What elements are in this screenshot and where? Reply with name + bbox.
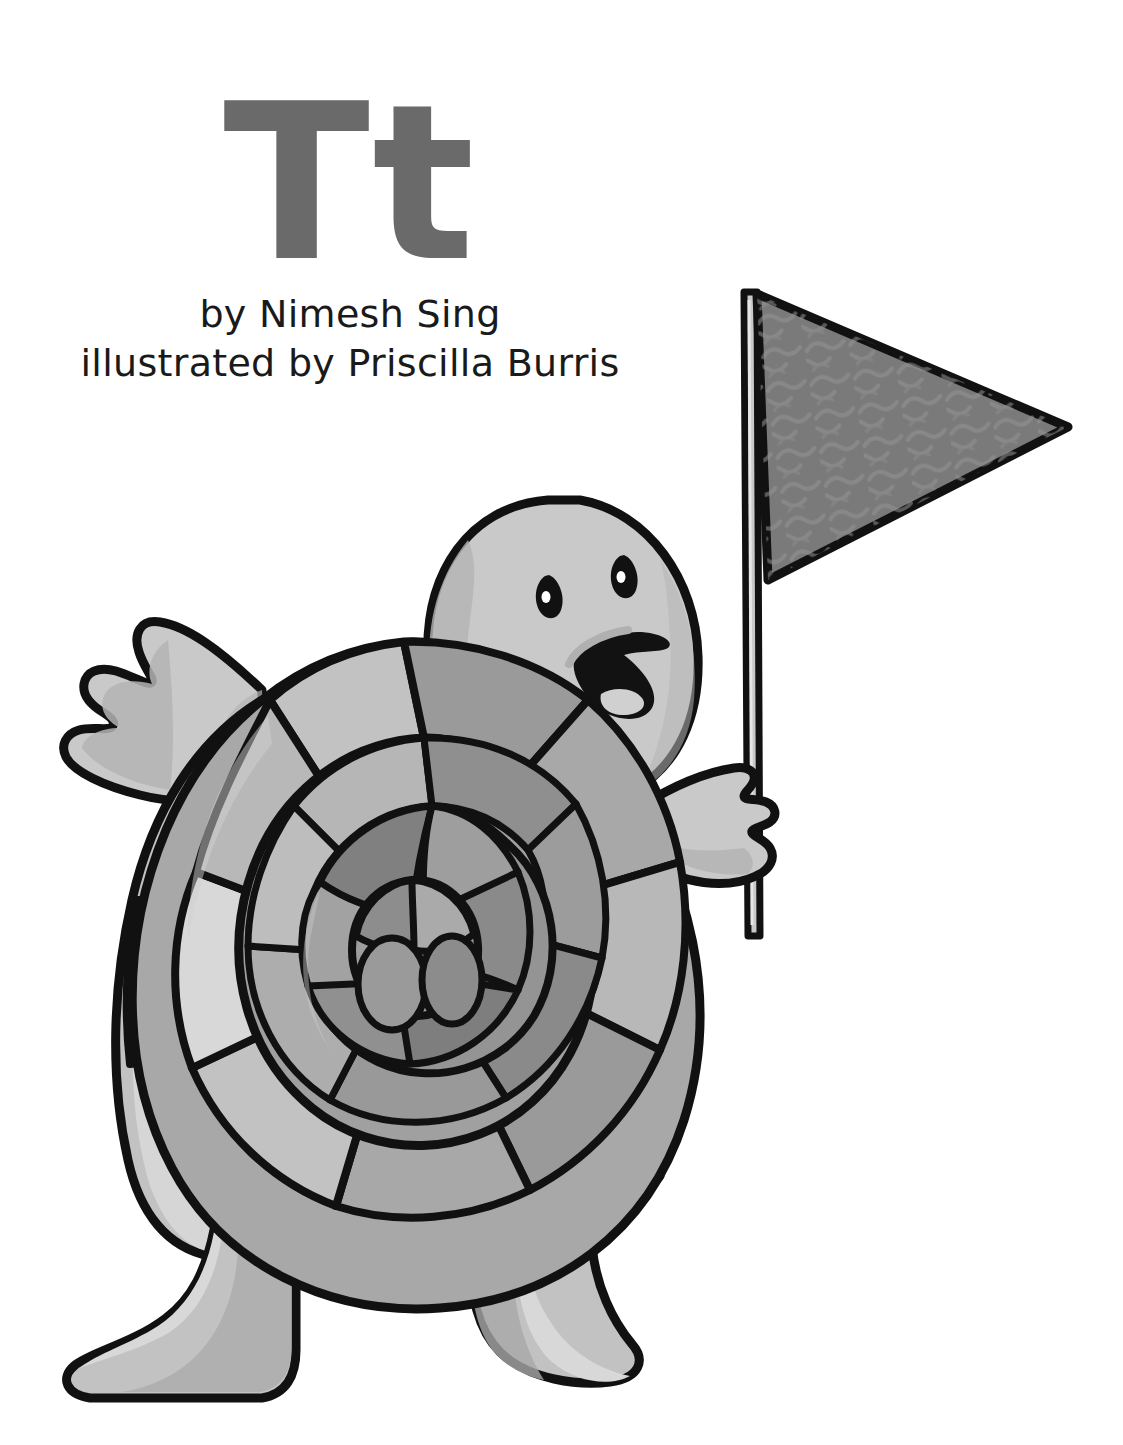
turtle: [64, 500, 775, 1398]
shell-core: [352, 880, 482, 1030]
turtle-illustration: [0, 0, 1123, 1445]
eye-highlight-right: [617, 571, 626, 583]
flag-pennant: [757, 294, 1068, 580]
turtle-shell: [132, 642, 700, 1309]
eye-highlight-left: [542, 591, 551, 603]
book-page: Tt by Nimesh Sing illustrated by Priscil…: [0, 0, 1123, 1445]
